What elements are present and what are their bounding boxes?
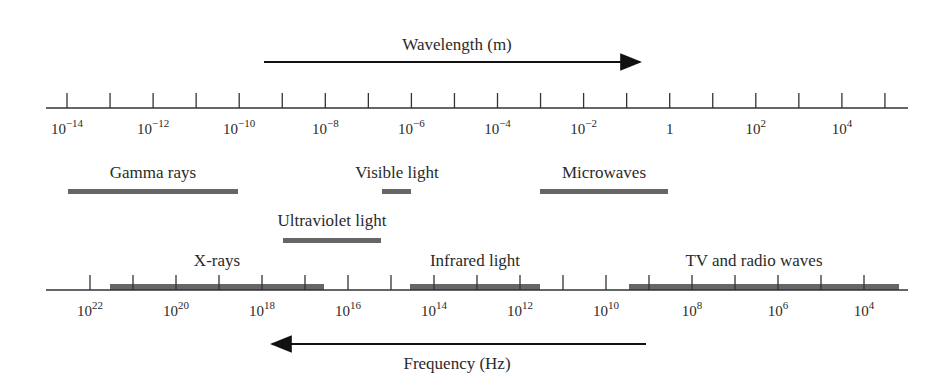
wavelength-tick-label: 1 xyxy=(666,121,674,137)
wavelength-tick-label: 10−8 xyxy=(312,117,339,137)
x-rays-band xyxy=(110,284,324,290)
ultraviolet-light-label: Ultraviolet light xyxy=(277,211,386,230)
frequency-tick-label: 106 xyxy=(768,299,789,319)
x-rays-label: X-rays xyxy=(194,251,240,270)
wavelength-tick-label: 104 xyxy=(832,117,853,137)
frequency-tick-label: 1018 xyxy=(249,299,276,319)
wavelength-tick-label: 10−4 xyxy=(484,117,511,137)
wavelength-tick-label: 10−14 xyxy=(51,117,84,137)
frequency-axis-title: Frequency (Hz) xyxy=(403,354,510,373)
ultraviolet-light-band xyxy=(283,238,381,243)
frequency-tick-label: 1010 xyxy=(593,299,620,319)
infrared-light-label: Infrared light xyxy=(430,251,520,270)
frequency-tick-label: 108 xyxy=(682,299,703,319)
wavelength-axis: 10−1410−1210−1010−810−610−410−21102104 xyxy=(46,93,908,137)
wavelength-tick-label: 10−6 xyxy=(398,117,425,137)
wavelength-axis-title: Wavelength (m) xyxy=(402,35,512,54)
wavelength-tick-label: 10−10 xyxy=(223,117,256,137)
visible-light-band xyxy=(382,189,411,194)
microwaves-band xyxy=(540,189,668,194)
frequency-tick-label: 1016 xyxy=(335,299,362,319)
gamma-rays-label: Gamma rays xyxy=(110,163,196,182)
wavelength-tick-label: 10−12 xyxy=(137,117,169,137)
tv-radio-waves-label: TV and radio waves xyxy=(685,251,822,270)
wavelength-tick-label: 10−2 xyxy=(570,117,597,137)
visible-light-label: Visible light xyxy=(355,163,439,182)
frequency-tick-label: 1014 xyxy=(421,299,448,319)
frequency-axis: 1022102010181016101410121010108106104 xyxy=(46,275,908,319)
tv-radio-waves-band xyxy=(629,284,899,290)
wavelength-tick-label: 102 xyxy=(746,117,767,137)
gamma-rays-band xyxy=(68,189,238,194)
frequency-tick-label: 1020 xyxy=(163,299,190,319)
frequency-tick-label: 104 xyxy=(854,299,875,319)
microwaves-label: Microwaves xyxy=(562,163,646,182)
frequency-tick-label: 1012 xyxy=(507,299,533,319)
frequency-tick-label: 1022 xyxy=(77,299,103,319)
electromagnetic-spectrum-diagram: Wavelength (m) 10−1410−1210−1010−810−610… xyxy=(0,0,949,388)
